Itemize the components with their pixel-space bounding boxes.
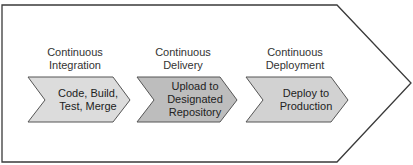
title-line: Delivery xyxy=(128,59,238,72)
content-line: Repository xyxy=(167,106,223,119)
content-line: Designated xyxy=(167,93,223,106)
content-line: Upload to xyxy=(167,80,223,93)
title-line: Continuous xyxy=(240,46,350,59)
stage-title-deployment: Continuous Deployment xyxy=(240,46,350,72)
content-line: Test, Merge xyxy=(58,100,118,113)
content-line: Deploy to xyxy=(280,87,333,100)
stage-content-delivery: Upload to Designated Repository xyxy=(155,77,235,122)
content-line: Production xyxy=(280,100,333,113)
title-line: Continuous xyxy=(20,46,130,59)
title-line: Deployment xyxy=(240,59,350,72)
stage-title-integration: Continuous Integration xyxy=(20,46,130,72)
stage-content-integration: Code, Build, Test, Merge xyxy=(48,77,128,122)
title-line: Continuous xyxy=(128,46,238,59)
stage-title-delivery: Continuous Delivery xyxy=(128,46,238,72)
title-line: Integration xyxy=(20,59,130,72)
content-line: Code, Build, xyxy=(58,87,118,100)
stage-content-deployment: Deploy to Production xyxy=(266,77,346,122)
